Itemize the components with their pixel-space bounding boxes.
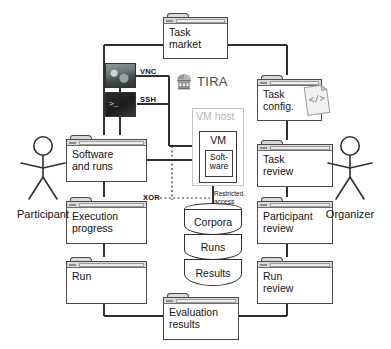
folder-titlebar (164, 298, 238, 304)
folder-titlebar (67, 262, 146, 268)
tira-brand: TIRA (175, 73, 228, 90)
node-run-review-label: Run review (263, 271, 329, 294)
actor-participant[interactable]: Participant (8, 135, 78, 220)
node-vm[interactable]: VM Soft- ware (199, 131, 237, 183)
folder-body: Execution progress (66, 201, 147, 244)
folder-body: Software and runs (66, 139, 147, 182)
node-evaluation-results-label: Evaluation results (169, 307, 235, 330)
node-run-review[interactable]: Run review (257, 257, 333, 304)
node-software-and-runs-label: Software and runs (72, 149, 143, 172)
database-segment-corpora: Corpora (184, 209, 242, 235)
folder-body: Run review (257, 261, 333, 304)
vnc-desktop-thumbnail[interactable] (105, 63, 136, 88)
database-segment-runs: Runs (184, 234, 242, 260)
folder-titlebar (67, 202, 146, 208)
node-execution-progress-label: Execution progress (72, 211, 143, 234)
code-document-icon: </> (303, 84, 331, 116)
node-software[interactable]: Soft- ware (205, 150, 233, 177)
node-evaluation-results[interactable]: Evaluation results (163, 293, 239, 340)
ssh-terminal-thumbnail[interactable]: >_ (105, 92, 136, 117)
node-software-and-runs[interactable]: Software and runs (66, 135, 147, 182)
code-document-glyph: </> (301, 82, 333, 118)
ssh-connection-label: SSH (140, 96, 156, 105)
node-task-market-label: Task market (169, 27, 224, 50)
node-vm-host-label: VM host (196, 110, 235, 122)
database-segment-corpora-label: Corpora (194, 216, 232, 228)
folder-body: Run (66, 261, 147, 304)
folder-titlebar (67, 140, 146, 146)
vnc-connection-label: VNC (140, 68, 156, 77)
actor-organizer-label: Organizer (326, 208, 374, 220)
actor-participant-label: Participant (17, 208, 69, 220)
database-segment-results: Results (184, 259, 242, 286)
node-vm-label: VM (200, 134, 236, 146)
tira-brand-name: TIRA (197, 74, 228, 89)
node-software-label: Soft- ware (206, 153, 232, 171)
actor-organizer[interactable]: Organizer (315, 135, 385, 220)
folder-titlebar (258, 262, 332, 268)
database-segment-runs-label: Runs (201, 241, 226, 253)
diagram-canvas: Task market VNC >_ SSH TIRA Ta (0, 0, 391, 349)
folder-titlebar (164, 18, 227, 24)
node-database[interactable]: Corpora Runs Results (184, 203, 242, 288)
node-task-market[interactable]: Task market (163, 13, 228, 59)
node-run[interactable]: Run (66, 257, 147, 304)
tira-dome-logo-icon (175, 73, 193, 90)
folder-body: Evaluation results (163, 297, 239, 340)
folder-body: Task market (163, 17, 228, 59)
database-segment-results-label: Results (195, 267, 230, 279)
node-execution-progress[interactable]: Execution progress (66, 197, 147, 244)
ssh-prompt-glyph: >_ (109, 100, 119, 108)
node-run-label: Run (72, 271, 143, 283)
